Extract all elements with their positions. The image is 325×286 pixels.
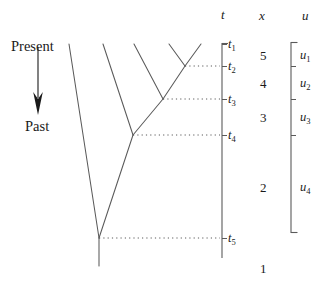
tree-branches-group <box>69 44 201 266</box>
present-label: Present <box>11 39 54 54</box>
edge-tip1-root <box>69 44 99 238</box>
u-bracket-ticks-group <box>291 67 296 136</box>
time-direction-arrow <box>33 47 43 115</box>
time-label-t5: t5 <box>228 232 236 245</box>
u-bracket-group <box>291 42 298 233</box>
u-label-u3: u3 <box>300 111 311 124</box>
time-axis-group <box>222 43 228 258</box>
time-label-t3: t3 <box>228 93 236 106</box>
lineage-count-3: 3 <box>260 111 267 124</box>
u-label-u1: u1 <box>300 49 311 62</box>
u-label-u2: u2 <box>300 77 311 90</box>
column-header-x: x <box>259 9 265 22</box>
time-axis-ticks-group <box>222 45 227 239</box>
time-label-t2: t2 <box>228 60 236 73</box>
edge-tip2-t4 <box>103 44 133 135</box>
edge-t4-t5 <box>99 135 133 238</box>
edge-tip3-t3 <box>134 44 163 99</box>
figure-canvas: Present Past t x u t1t2t3t4t5 54321 u1u2… <box>0 0 325 286</box>
lineage-count-5: 5 <box>260 49 267 62</box>
past-label: Past <box>25 119 49 134</box>
edge-t2-t3 <box>163 66 185 99</box>
edge-t3-t4 <box>133 99 163 135</box>
edge-tip5-t2 <box>185 44 201 66</box>
column-header-t: t <box>221 8 225 21</box>
lineage-count-4: 4 <box>260 77 267 90</box>
lineage-count-2: 2 <box>260 181 267 194</box>
time-label-t1: t1 <box>228 38 236 51</box>
edge-tip4-t2 <box>169 44 185 66</box>
time-label-t4: t4 <box>228 129 236 142</box>
column-header-u: u <box>302 9 309 22</box>
u-label-u4: u4 <box>300 181 311 194</box>
lineage-count-1: 1 <box>260 262 267 275</box>
